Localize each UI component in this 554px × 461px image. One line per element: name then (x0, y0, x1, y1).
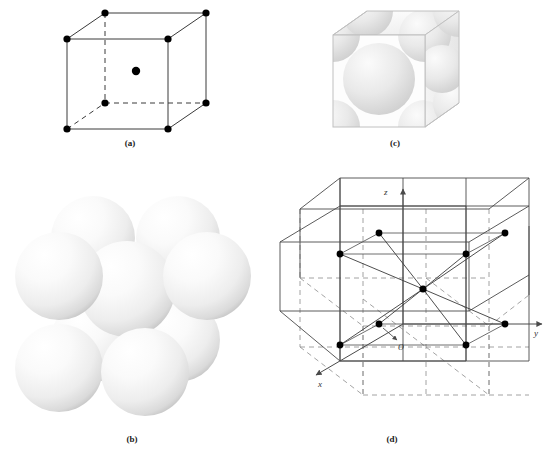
corner-sphere (15, 324, 103, 412)
body-center-sphere-section (343, 43, 415, 115)
corner-atom (101, 99, 108, 106)
hidden-lattice-lines (300, 209, 529, 395)
z-axis-label: z (383, 187, 388, 197)
panel-d-svg: z y x (280, 185, 550, 410)
body-center-atom (419, 285, 426, 292)
front-face-edges (67, 39, 168, 129)
y-axis-label: y (533, 328, 538, 338)
corner-atom (63, 35, 70, 42)
corner-atom (202, 99, 209, 106)
corner-atom (101, 9, 108, 16)
corner-atom (376, 230, 383, 237)
panel-a-svg (55, 5, 220, 135)
panel-c-cutaway-aggregate (325, 5, 475, 135)
body-center-atom (132, 67, 140, 75)
lattice-framework (280, 178, 529, 361)
panel-a-reduced-sphere-unit-cell (55, 5, 220, 135)
corner-atom (164, 125, 171, 132)
corner-atom (164, 35, 171, 42)
origin-atom (376, 321, 383, 328)
panel-b-svg (15, 190, 250, 415)
lattice-atoms (337, 230, 509, 349)
connect-edge-top-right (168, 13, 206, 39)
caption-d: (d) (372, 434, 412, 444)
connect-edge-bottom-left-hidden (67, 103, 105, 129)
back-face-hidden-edges (105, 13, 206, 103)
origin-label: O (398, 343, 404, 352)
corner-atom (463, 251, 470, 258)
corner-sphere (163, 232, 251, 320)
bcc-crystal-structure-figure: (a) (0, 0, 554, 461)
corner-atom (337, 251, 344, 258)
corner-atom (63, 125, 70, 132)
panel-b-hard-sphere-model (15, 190, 250, 415)
caption-c: (c) (375, 138, 415, 148)
corner-atom (502, 230, 509, 237)
corner-atom (337, 342, 344, 349)
corner-atom (502, 321, 509, 328)
corner-sphere (101, 328, 189, 416)
panel-d-aggregate-with-axes: z y x (280, 185, 550, 410)
corner-atom (463, 342, 470, 349)
corner-sphere (15, 232, 103, 320)
caption-b: (b) (112, 434, 152, 444)
corner-atom (202, 9, 209, 16)
connect-edge-bottom-right (168, 103, 206, 129)
connect-edge-top-left (67, 13, 105, 39)
panel-c-svg (325, 5, 475, 135)
caption-a: (a) (110, 138, 150, 148)
back-face-solid-edges (105, 13, 206, 103)
x-axis-label: x (317, 379, 322, 389)
